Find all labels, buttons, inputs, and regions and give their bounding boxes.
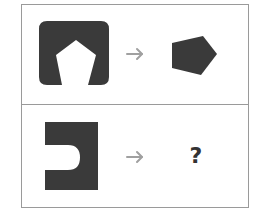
arrow-icon <box>127 49 142 59</box>
question-mark: ? <box>184 140 208 172</box>
puzzle-graphics <box>0 0 261 216</box>
arrow-icon <box>127 152 142 162</box>
pentagon-shape <box>172 36 217 75</box>
rounded-square-pentagon-cutout-shape <box>39 21 109 85</box>
rectangle-u-notch-shape <box>45 122 98 190</box>
